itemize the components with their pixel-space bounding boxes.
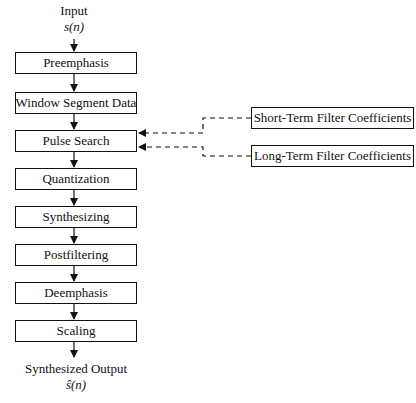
- step-window-segment-data: Window Segment Data: [15, 92, 137, 114]
- step-label: Scaling: [57, 323, 96, 339]
- step-deemphasis: Deemphasis: [15, 282, 137, 304]
- input-label: Input s(n): [34, 3, 114, 35]
- step-postfiltering: Postfiltering: [15, 244, 137, 266]
- step-synthesizing: Synthesizing: [15, 206, 137, 228]
- step-label: Pulse Search: [43, 133, 110, 149]
- step-label: Synthesizing: [42, 209, 109, 225]
- step-label: Preemphasis: [43, 55, 109, 71]
- step-preemphasis: Preemphasis: [15, 52, 137, 74]
- input-signal: s(n): [34, 19, 114, 35]
- step-scaling: Scaling: [15, 320, 137, 342]
- input-text: Input: [34, 3, 114, 19]
- side-input-label: Short-Term Filter Coefficients: [254, 110, 412, 126]
- step-quantization: Quantization: [15, 168, 137, 190]
- step-pulse-search: Pulse Search: [15, 130, 137, 152]
- output-text: Synthesized Output: [14, 361, 138, 377]
- short-term-filter-coefficients-box: Short-Term Filter Coefficients: [251, 107, 414, 129]
- step-label: Postfiltering: [44, 247, 108, 263]
- step-label: Window Segment Data: [16, 95, 137, 111]
- step-label: Deemphasis: [44, 285, 108, 301]
- step-label: Quantization: [42, 171, 109, 187]
- long-term-filter-coefficients-box: Long-Term Filter Coefficients: [251, 145, 414, 167]
- side-input-label: Long-Term Filter Coefficients: [254, 148, 411, 164]
- output-label: Synthesized Output ŝ(n): [14, 361, 138, 393]
- output-signal: ŝ(n): [14, 377, 138, 393]
